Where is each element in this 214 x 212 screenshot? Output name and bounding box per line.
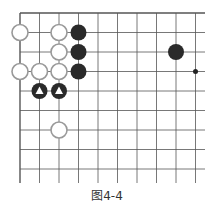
white-stone: [51, 25, 67, 41]
black-stone: [71, 25, 87, 41]
white-stone: [51, 64, 67, 80]
white-stone: [32, 64, 48, 80]
white-stone: [12, 25, 28, 41]
white-stone: [12, 64, 28, 80]
go-board-diagram: [0, 0, 214, 186]
black-stone: [71, 64, 87, 80]
black-stone: [71, 44, 87, 60]
white-stone: [51, 44, 67, 60]
star-point: [193, 69, 198, 74]
black-stone: [168, 44, 184, 60]
figure-caption: 图4-4: [0, 186, 214, 203]
white-stone: [51, 122, 67, 138]
